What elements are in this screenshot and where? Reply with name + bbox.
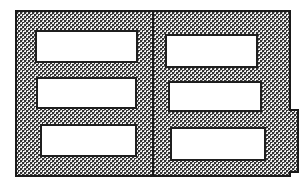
figure-canvas: Hatched cross-section diagram Rectangula… — [0, 0, 308, 189]
cross-section-figure — [0, 0, 308, 189]
void-left-2 — [37, 78, 136, 108]
right-panel-voids — [166, 35, 265, 160]
void-left-3 — [41, 125, 136, 156]
void-left-1 — [36, 31, 137, 62]
left-panel-voids — [36, 31, 137, 156]
void-right-1 — [166, 35, 257, 67]
void-right-2 — [169, 82, 261, 111]
void-right-3 — [171, 128, 265, 160]
